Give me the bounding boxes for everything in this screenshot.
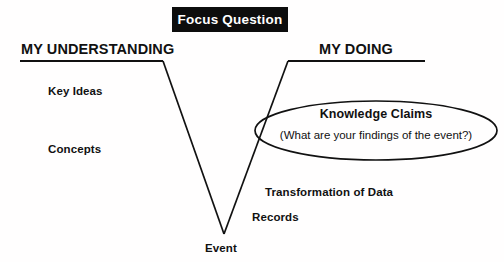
label-records: Records xyxy=(252,212,299,224)
label-key-ideas: Key Ideas xyxy=(48,86,103,98)
knowledge-claims-subtitle: (What are your findings of the event?) xyxy=(258,130,494,142)
focus-question-label: Focus Question xyxy=(178,13,283,27)
label-event: Event xyxy=(205,243,237,255)
focus-question-banner: Focus Question xyxy=(172,7,288,32)
v-diagram: Focus Question MY UNDERSTANDING MY DOING… xyxy=(0,0,504,262)
heading-my-understanding: MY UNDERSTANDING xyxy=(21,42,174,57)
label-transformation-of-data: Transformation of Data xyxy=(265,187,393,199)
knowledge-claims-title: Knowledge Claims xyxy=(258,108,494,121)
knowledge-claims-text: Knowledge Claims (What are your findings… xyxy=(258,108,494,141)
label-concepts: Concepts xyxy=(48,144,101,156)
heading-my-doing: MY DOING xyxy=(319,42,393,57)
v-left-arm xyxy=(163,61,224,234)
